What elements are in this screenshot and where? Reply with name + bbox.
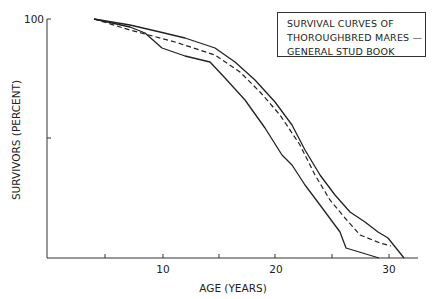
chart-title-box: SURVIVAL CURVES OF THOROUGHBRED MARES — …	[277, 12, 426, 57]
x-tick-label-20: 20	[269, 263, 282, 275]
y-tick-label-100: 100	[24, 13, 44, 25]
title-line-2: THOROUGHBRED MARES —	[287, 31, 425, 45]
title-line-3: GENERAL STUD BOOK	[287, 45, 425, 59]
x-ticks	[105, 254, 389, 258]
y-axis-title: SURVIVORS (PERCENT)	[10, 80, 22, 200]
x-tick-label-30: 30	[382, 263, 395, 275]
x-tick-label-10: 10	[156, 263, 169, 275]
title-line-1: SURVIVAL CURVES OF	[287, 17, 425, 31]
x-axis-title: AGE (YEARS)	[199, 282, 267, 294]
